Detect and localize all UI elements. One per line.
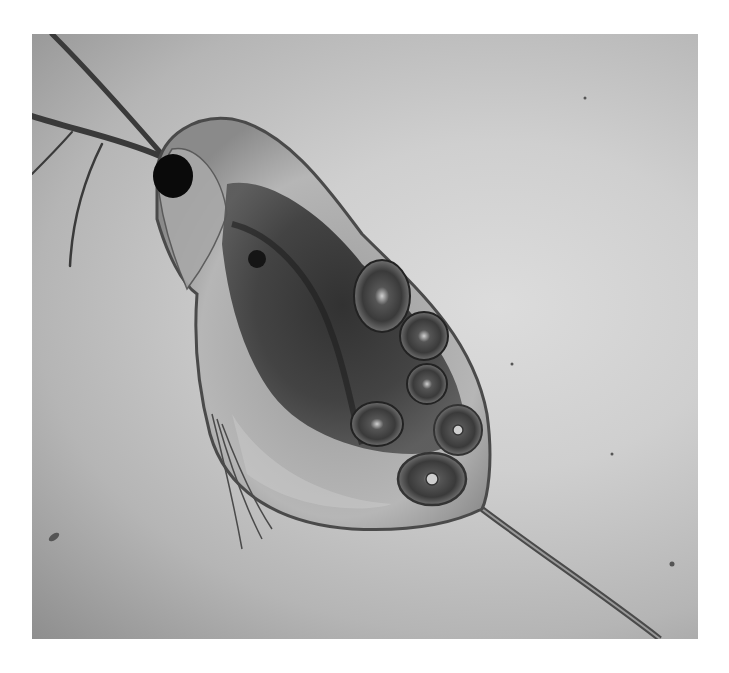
daphnia-illustration: [32, 34, 698, 639]
compound-eye: [153, 154, 193, 198]
micrograph-photo: Daphnia (water flea) under light microsc…: [32, 34, 698, 639]
antennae: [32, 34, 160, 266]
ocellus: [248, 250, 266, 268]
